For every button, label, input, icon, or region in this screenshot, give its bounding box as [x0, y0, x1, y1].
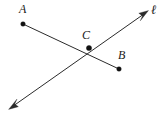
line-l-label: ℓ	[151, 3, 156, 16]
figure-canvas	[0, 0, 164, 118]
arrowhead-upper-right-icon	[139, 11, 149, 21]
geometry-figure: A C B ℓ	[0, 0, 164, 118]
point-a-dot	[21, 22, 26, 27]
point-c-label: C	[82, 29, 90, 41]
point-c-dot	[86, 45, 91, 50]
segment-ab	[23, 24, 119, 69]
point-b-label: B	[118, 49, 125, 61]
point-b-dot	[117, 67, 122, 72]
point-a-label: A	[19, 3, 26, 15]
arrowhead-lower-left-icon	[9, 99, 19, 109]
